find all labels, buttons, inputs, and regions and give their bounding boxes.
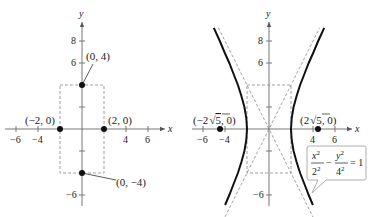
point-0-4 — [79, 82, 85, 88]
y-tick-label: 8 — [71, 35, 76, 46]
focus-label-right: (2√5, 0) — [300, 114, 337, 127]
y-tick-label: 6 — [258, 57, 263, 68]
eq-minus: − — [326, 157, 332, 168]
x-tick-label: 4 — [123, 134, 128, 145]
y-axis-label: y — [78, 8, 84, 19]
x-tick-label: 4 — [310, 134, 315, 145]
leader-line — [82, 173, 116, 180]
point-label: (0, −4) — [116, 176, 146, 189]
point-label: (0, 4) — [86, 50, 110, 63]
equation-callout: x2 22 − y2 42 = 1 — [307, 146, 366, 193]
eq-rhs: = 1 — [350, 157, 363, 168]
y-tick-label: −6 — [253, 189, 264, 200]
right-graph: x y −6 −4 4 6 8 6 −6 — [192, 8, 366, 217]
left-graph: x y −6 −4 4 6 8 6 −6 — [5, 8, 173, 206]
y-axis-label: y — [265, 8, 271, 19]
y-tick-label: −6 — [66, 189, 77, 200]
x-tick-label: −6 — [197, 134, 208, 145]
figure-canvas: x y −6 −4 4 6 8 6 −6 — [0, 0, 377, 217]
focus-right — [315, 126, 321, 132]
x-axis-label: x — [167, 123, 173, 134]
x-axis-label: x — [354, 123, 360, 134]
focus-left — [217, 126, 223, 132]
x-tick-label: −6 — [10, 134, 21, 145]
x-tick-label: −4 — [219, 134, 230, 145]
x-tick-label: −4 — [32, 134, 43, 145]
x-tick-label: 6 — [145, 134, 150, 145]
leader-line — [82, 64, 93, 85]
y-tick-label: 8 — [258, 35, 263, 46]
point-2-0 — [101, 126, 107, 132]
x-tick-label: 6 — [332, 134, 337, 145]
point-label: (−2, 0) — [25, 114, 55, 127]
point-0-neg4 — [79, 170, 85, 176]
y-tick-label: 6 — [71, 57, 76, 68]
focus-label-left: (−2√5, 0) — [193, 114, 236, 127]
point-neg2-0 — [57, 126, 63, 132]
point-label: (2, 0) — [108, 114, 132, 127]
